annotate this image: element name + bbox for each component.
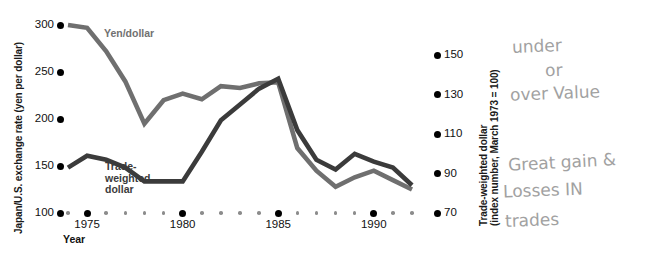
- handwritten-note-losses-in: Losses IN: [503, 179, 583, 202]
- left-tick-label: 200: [18, 112, 54, 124]
- right-tick-dot: [434, 131, 441, 138]
- x-tick-dot-minor: [391, 211, 395, 215]
- x-tick-dot-minor: [143, 211, 147, 215]
- x-tick-dot-minor: [66, 211, 70, 215]
- right-tick-dot: [434, 170, 441, 177]
- left-tick-label: 150: [18, 159, 54, 171]
- right-tick-label: 110: [444, 127, 484, 139]
- left-tick-dot: [57, 22, 64, 29]
- left-tick-dot: [57, 163, 64, 170]
- handwritten-note-trades: trades: [505, 209, 560, 231]
- right-tick-label: 70: [444, 206, 484, 218]
- x-tick-dot-minor: [124, 211, 128, 215]
- left-tick-dot: [57, 116, 64, 123]
- x-tick-dot-major: [370, 210, 377, 217]
- x-tick-dot-major: [84, 210, 91, 217]
- left-tick-label: 100: [18, 206, 54, 218]
- right-tick-label: 150: [444, 48, 484, 60]
- x-tick-label: 1980: [170, 218, 196, 230]
- x-tick-dot-minor: [296, 211, 300, 215]
- handwritten-note-under: under: [512, 35, 563, 57]
- right-tick-label: 130: [444, 88, 484, 100]
- series-line-trade-weighted-dollar: [68, 79, 412, 186]
- x-tick-dot-minor: [238, 211, 242, 215]
- x-tick-dot-minor: [410, 211, 414, 215]
- x-tick-dot-minor: [257, 211, 261, 215]
- right-tick-label: 90: [444, 167, 484, 179]
- right-tick-dot: [434, 210, 441, 217]
- x-tick-dot-minor: [315, 211, 319, 215]
- left-tick-dot: [57, 210, 64, 217]
- x-tick-label: 1985: [265, 218, 291, 230]
- x-tick-dot-major: [179, 210, 186, 217]
- x-tick-dot-minor: [334, 211, 338, 215]
- handwritten-note-over-value: over Value: [510, 81, 601, 104]
- x-tick-dot-minor: [104, 211, 108, 215]
- chart-figure: Japan/U.S. exchange rate (yen per dollar…: [0, 0, 654, 259]
- x-tick-dot-minor: [162, 211, 166, 215]
- x-tick-dot-minor: [200, 211, 204, 215]
- left-tick-label: 300: [18, 18, 54, 30]
- left-tick-dot: [57, 69, 64, 76]
- right-tick-dot: [434, 52, 441, 59]
- x-tick-label: 1990: [361, 218, 387, 230]
- handwritten-note-or: or: [545, 60, 563, 81]
- right-tick-dot: [434, 91, 441, 98]
- x-tick-dot-major: [275, 210, 282, 217]
- x-tick-label: 1975: [74, 218, 100, 230]
- left-tick-label: 250: [18, 65, 54, 77]
- x-tick-dot-minor: [219, 211, 223, 215]
